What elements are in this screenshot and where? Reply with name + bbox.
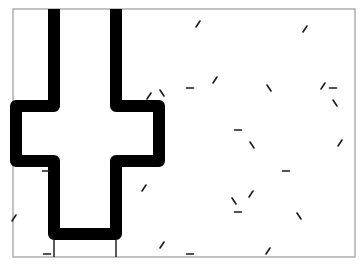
exit-lines xyxy=(54,240,116,257)
line-segment-diag-up xyxy=(303,26,307,32)
line-segment-diag-up xyxy=(160,242,164,248)
line-segment-diag-up xyxy=(338,140,342,146)
line-segment-diag-up xyxy=(147,93,151,99)
line-segment-diag-up xyxy=(213,77,217,83)
line-segment-diag-down xyxy=(160,90,164,96)
line-segment-diag-down xyxy=(250,142,254,148)
stimulus-frame xyxy=(13,9,355,257)
line-segment-diag-up xyxy=(196,21,200,27)
line-segment-diag-down xyxy=(267,85,271,91)
line-segment-diag-down xyxy=(232,198,236,204)
distractor-segments xyxy=(12,21,342,254)
line-segment-diag-up xyxy=(321,83,325,89)
line-segment-diag-up xyxy=(249,191,253,197)
line-segment-diag-down xyxy=(297,213,301,219)
stimulus-canvas xyxy=(0,0,364,265)
cross-path xyxy=(16,9,159,234)
line-segment-diag-down xyxy=(333,100,337,106)
line-segment-diag-up xyxy=(266,248,270,254)
line-segment-diag-up xyxy=(142,185,146,191)
